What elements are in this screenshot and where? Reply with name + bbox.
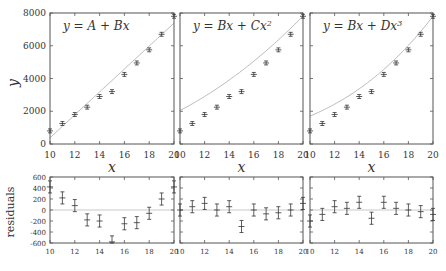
y-tick-label: 0 (40, 139, 46, 149)
x-tick-label: 16 (248, 150, 260, 160)
data-point (344, 105, 350, 109)
data-point (418, 32, 424, 36)
y-axis-label: y (5, 78, 21, 88)
data-point (288, 32, 294, 36)
data-point (405, 204, 411, 216)
y-tick-label: 600 (33, 174, 46, 182)
x-tick-label: 16 (249, 248, 258, 256)
data-point (356, 95, 362, 99)
x-tick-label: 14 (95, 248, 104, 256)
x-tick-label: 10 (176, 248, 185, 256)
x-axis-label: x (368, 159, 376, 175)
data-point (381, 196, 387, 208)
x-tick-label: 14 (353, 150, 365, 160)
data-point (226, 201, 232, 213)
data-point (177, 129, 183, 133)
data-point (134, 61, 140, 65)
data-point (109, 236, 115, 243)
data-point (177, 204, 183, 216)
data-point (109, 90, 115, 94)
fit-formula-title: y = A + Bx (62, 19, 130, 33)
data-point (146, 207, 152, 219)
data-point (47, 129, 53, 133)
data-point (251, 204, 257, 216)
x-tick-label: 20 (429, 248, 438, 256)
y-tick-label: 2000 (23, 106, 46, 116)
data-point (47, 181, 53, 193)
x-tick-label: 12 (329, 150, 340, 160)
data-point (189, 201, 195, 213)
panel-residuals-cubic: 101214161820 (306, 177, 438, 256)
x-tick-label: 18 (274, 248, 283, 256)
x-tick-label: 10 (46, 248, 55, 256)
data-point (369, 212, 375, 224)
x-tick-label: 14 (94, 150, 106, 160)
data-point (251, 72, 257, 76)
x-tick-label: 14 (355, 248, 364, 256)
data-point (356, 196, 362, 208)
x-tick-label: 14 (225, 248, 234, 256)
fit-comparison-chart: 10121416182002000400060008000xy = A + Bx… (0, 0, 446, 271)
data-point (344, 202, 350, 214)
y-tick-label: 0 (42, 207, 46, 215)
data-point (430, 14, 436, 18)
x-tick-label: 18 (145, 248, 154, 256)
data-point (393, 61, 399, 65)
data-point (393, 202, 399, 214)
panel-residuals-linear: 101214161820-600-400-2000200400600 (30, 174, 178, 256)
data-point (239, 90, 245, 94)
data-point (369, 90, 375, 94)
fit-formula-title: y = Bx + Cx2 (192, 19, 272, 34)
x-tick-label: 18 (404, 248, 413, 256)
data-point (319, 122, 325, 126)
fit-formula-title: y = Bx + Dx3 (322, 19, 402, 34)
data-point (171, 181, 177, 193)
x-tick-label: 12 (70, 248, 79, 256)
data-point (202, 197, 208, 209)
residuals-axis-label: residuals (4, 186, 17, 237)
panel-fit-linear: 10121416182002000400060008000xy = A + Bx (23, 8, 180, 175)
data-point (307, 129, 313, 133)
x-tick-label: 10 (44, 150, 56, 160)
x-tick-label: 12 (200, 248, 209, 256)
data-point (405, 48, 411, 52)
data-point (418, 206, 424, 218)
data-point (275, 48, 281, 52)
x-axis-label: x (108, 159, 116, 175)
data-point (332, 113, 338, 117)
x-tick-label: 16 (120, 248, 129, 256)
data-point (202, 113, 208, 117)
y-tick-label: 8000 (23, 8, 46, 18)
data-point (332, 201, 338, 213)
chart-panels: 10121416182002000400060008000xy = A + Bx… (23, 8, 439, 256)
x-tick-label: 12 (69, 150, 80, 160)
data-point (275, 207, 281, 219)
data-point (381, 72, 387, 76)
data-point (288, 204, 294, 216)
x-tick-label: 16 (378, 150, 390, 160)
data-point (97, 215, 103, 227)
y-tick-label: -200 (30, 218, 46, 226)
x-tick-label: 12 (330, 248, 339, 256)
x-tick-label: 14 (223, 150, 235, 160)
data-point (214, 204, 220, 216)
data-point (239, 220, 245, 232)
data-point (121, 72, 127, 76)
data-point (263, 61, 269, 65)
x-tick-label: 10 (306, 248, 315, 256)
panel-fit-cubic: 101214161820xy = Bx + Dx3 (304, 13, 439, 175)
x-tick-label: 18 (273, 150, 285, 160)
x-tick-label: 10 (304, 150, 316, 160)
x-tick-label: 16 (119, 150, 131, 160)
y-tick-label: -600 (30, 240, 46, 248)
panel-residuals-quadratic: 101214161820 (176, 177, 308, 256)
data-point (121, 218, 127, 230)
x-tick-label: 18 (143, 150, 155, 160)
x-tick-label: 16 (379, 248, 388, 256)
y-tick-label: 6000 (23, 41, 46, 51)
data-point (134, 217, 140, 229)
data-point (171, 14, 177, 18)
x-tick-label: 18 (403, 150, 415, 160)
data-point (59, 192, 65, 204)
x-tick-label: 20 (427, 150, 439, 160)
